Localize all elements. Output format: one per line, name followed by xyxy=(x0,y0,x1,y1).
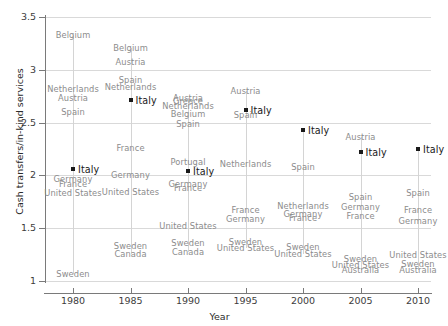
data-point-label: Austria xyxy=(115,57,145,67)
data-point-label: United States xyxy=(274,249,331,259)
data-point-label: France xyxy=(346,211,374,221)
gridline xyxy=(45,17,431,18)
data-point-label: Sweden xyxy=(171,238,204,248)
x-tick xyxy=(361,288,362,293)
y-tick xyxy=(39,281,45,282)
data-point-label: Germany xyxy=(399,216,438,226)
x-tick-label: 2005 xyxy=(331,295,391,306)
data-point-label: Germany xyxy=(111,170,150,180)
gridline xyxy=(45,175,431,176)
data-point-label: Australia xyxy=(399,265,437,275)
data-point-marker xyxy=(71,167,75,171)
column-connector xyxy=(73,35,74,274)
data-point-label: United States xyxy=(102,187,159,197)
data-point-label-highlight: Italy xyxy=(193,166,214,177)
x-tick-label: 1985 xyxy=(101,295,161,306)
data-point-label: Netherlands xyxy=(220,159,272,169)
data-point-label-highlight: Italy xyxy=(308,124,329,135)
y-tick xyxy=(39,70,45,71)
data-point-marker xyxy=(186,169,190,173)
data-point-label: Canada xyxy=(114,249,146,259)
data-point-label: France xyxy=(59,179,87,189)
data-point-label: Spain xyxy=(61,107,85,117)
data-point-label: Austria xyxy=(230,86,260,96)
x-tick-label: 1995 xyxy=(216,295,276,306)
data-point-label: France xyxy=(116,143,144,153)
x-tick xyxy=(303,288,304,293)
y-tick xyxy=(39,175,45,176)
data-point-label: Netherlands xyxy=(105,82,157,92)
column-connector xyxy=(303,130,304,254)
data-point-label: Germany xyxy=(226,214,265,224)
data-point-label: Australia xyxy=(342,265,380,275)
data-point-label: Belgium xyxy=(56,30,91,40)
data-point-marker xyxy=(359,150,363,154)
x-axis-label: Year xyxy=(0,311,439,322)
gridline xyxy=(45,281,431,282)
data-point-label: Sweden xyxy=(56,269,89,279)
data-point-label: United States xyxy=(159,221,216,231)
y-tick xyxy=(39,228,45,229)
x-axis-line xyxy=(44,293,432,294)
data-point-label: Spain xyxy=(406,188,430,198)
data-point-label: France xyxy=(404,205,432,215)
data-point-label: Austria xyxy=(345,132,375,142)
x-tick xyxy=(73,288,74,293)
y-tick-label: 3.5 xyxy=(0,11,36,22)
y-tick xyxy=(39,17,45,18)
data-point-label: United States xyxy=(389,250,446,260)
data-point-label: Spain xyxy=(234,110,258,120)
data-point-label: United States xyxy=(217,243,274,253)
data-point-label: France xyxy=(174,183,202,193)
data-point-marker xyxy=(416,147,420,151)
x-tick xyxy=(418,288,419,293)
data-point-label: Spain xyxy=(349,192,373,202)
gridline xyxy=(45,228,431,229)
y-tick xyxy=(39,123,45,124)
data-point-label: Austria xyxy=(58,93,88,103)
data-point-label: Belgium xyxy=(171,109,206,119)
data-point-label: Netherlands xyxy=(47,84,99,94)
data-point-label: France xyxy=(289,213,317,223)
data-point-label-highlight: Italy xyxy=(423,144,444,155)
data-point-label: Spain xyxy=(176,119,200,129)
x-tick-label: 1990 xyxy=(158,295,218,306)
data-point-label-highlight: Italy xyxy=(136,95,157,106)
gridline xyxy=(45,123,431,124)
data-point-marker xyxy=(301,128,305,132)
y-tick-label: 1 xyxy=(0,275,36,286)
y-axis-label: Cash transfers/in-kind services xyxy=(14,42,25,242)
x-tick xyxy=(131,288,132,293)
x-tick xyxy=(246,288,247,293)
data-point-label: Spain xyxy=(291,162,315,172)
gridline xyxy=(45,70,431,71)
x-tick-label: 2000 xyxy=(273,295,333,306)
data-point-label: Canada xyxy=(172,247,204,257)
x-tick xyxy=(188,288,189,293)
data-point-label: Belgium xyxy=(113,43,148,53)
y-axis-line xyxy=(45,15,46,283)
x-tick-label: 1980 xyxy=(43,295,103,306)
x-tick-label: 2010 xyxy=(388,295,448,306)
data-point-label-highlight: Italy xyxy=(366,147,387,158)
data-point-marker xyxy=(129,98,133,102)
data-point-label: United States xyxy=(44,188,101,198)
